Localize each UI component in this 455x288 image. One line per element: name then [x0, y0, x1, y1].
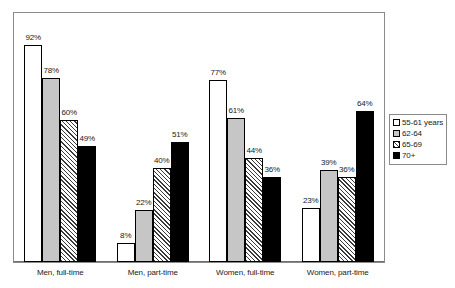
bar-slot: 36%: [263, 13, 281, 262]
bar[interactable]: 40%: [153, 168, 171, 262]
bar[interactable]: 8%: [117, 243, 135, 262]
bar-value-label: 39%: [321, 158, 337, 167]
bar[interactable]: 36%: [263, 177, 281, 262]
bar-slot: 64%: [356, 13, 374, 262]
bar-group-bars: 77%61%44%36%: [209, 13, 281, 262]
category-label: Women, part-time: [292, 268, 385, 278]
legend-label: 65-69: [402, 140, 422, 149]
legend-swatch-icon: [393, 141, 400, 148]
legend-label: 62-64: [402, 129, 422, 138]
bar-slot: 60%: [60, 13, 78, 262]
bar-chart: 92%78%60%49%8%22%40%51%77%61%44%36%23%39…: [0, 0, 455, 288]
bar-value-label: 44%: [246, 146, 262, 155]
bar[interactable]: 49%: [78, 146, 96, 262]
bar-slot: 8%: [117, 13, 135, 262]
legend-label: 70+: [402, 151, 415, 160]
bar[interactable]: 64%: [356, 111, 374, 262]
bar-value-label: 49%: [79, 134, 95, 143]
bar[interactable]: 36%: [338, 177, 356, 262]
bar-group-bars: 92%78%60%49%: [24, 13, 96, 262]
legend-item[interactable]: 55-61 years: [393, 117, 443, 128]
bar[interactable]: 22%: [135, 210, 153, 262]
bar-slot: 51%: [171, 13, 189, 262]
plot-area: 92%78%60%49%8%22%40%51%77%61%44%36%23%39…: [14, 13, 384, 262]
bar-value-label: 36%: [339, 165, 355, 174]
bar[interactable]: 61%: [227, 118, 245, 262]
bar[interactable]: 92%: [24, 45, 42, 262]
bar-slot: 36%: [338, 13, 356, 262]
bar-slot: 44%: [245, 13, 263, 262]
bar-group: 77%61%44%36%: [199, 13, 292, 262]
bar-slot: 23%: [302, 13, 320, 262]
bar-value-label: 64%: [357, 99, 373, 108]
bar[interactable]: 39%: [320, 170, 338, 262]
bar-value-label: 92%: [25, 33, 41, 42]
bar-value-label: 22%: [136, 198, 152, 207]
legend-label: 55-61 years: [402, 118, 443, 127]
bar-value-label: 78%: [43, 66, 59, 75]
category-label: Women, full-time: [199, 268, 292, 278]
bar-slot: 77%: [209, 13, 227, 262]
bar[interactable]: 77%: [209, 80, 227, 262]
bar-value-label: 40%: [154, 156, 170, 165]
bar[interactable]: 78%: [42, 78, 60, 262]
bar-slot: 22%: [135, 13, 153, 262]
bar-groups: 92%78%60%49%8%22%40%51%77%61%44%36%23%39…: [14, 13, 384, 262]
chart-legend: 55-61 years62-6465-6970+: [389, 114, 447, 165]
bar-value-label: 60%: [61, 108, 77, 117]
legend-item[interactable]: 65-69: [393, 139, 443, 150]
bar-value-label: 36%: [264, 165, 280, 174]
bar-slot: 61%: [227, 13, 245, 262]
bar-group: 23%39%36%64%: [292, 13, 385, 262]
bar-value-label: 51%: [172, 130, 188, 139]
bar-value-label: 61%: [228, 106, 244, 115]
bar-value-label: 23%: [303, 196, 319, 205]
bar-slot: 78%: [42, 13, 60, 262]
legend-swatch-icon: [393, 119, 400, 126]
bar-group: 92%78%60%49%: [14, 13, 107, 262]
bar-group: 8%22%40%51%: [107, 13, 200, 262]
legend-swatch-icon: [393, 152, 400, 159]
bar[interactable]: 60%: [60, 120, 78, 262]
bar[interactable]: 44%: [245, 158, 263, 262]
category-axis-labels: Men, full-timeMen, part-timeWomen, full-…: [14, 268, 384, 278]
bar-slot: 92%: [24, 13, 42, 262]
legend-item[interactable]: 62-64: [393, 128, 443, 139]
legend-swatch-icon: [393, 130, 400, 137]
bar[interactable]: 23%: [302, 208, 320, 262]
category-label: Men, part-time: [107, 268, 200, 278]
bar-slot: 49%: [78, 13, 96, 262]
bar-slot: 40%: [153, 13, 171, 262]
bar-value-label: 77%: [210, 68, 226, 77]
bar-group-bars: 8%22%40%51%: [117, 13, 189, 262]
bar-slot: 39%: [320, 13, 338, 262]
legend-item[interactable]: 70+: [393, 150, 443, 161]
bar[interactable]: 51%: [171, 142, 189, 262]
bar-value-label: 8%: [120, 231, 131, 240]
category-label: Men, full-time: [14, 268, 107, 278]
bar-group-bars: 23%39%36%64%: [302, 13, 374, 262]
